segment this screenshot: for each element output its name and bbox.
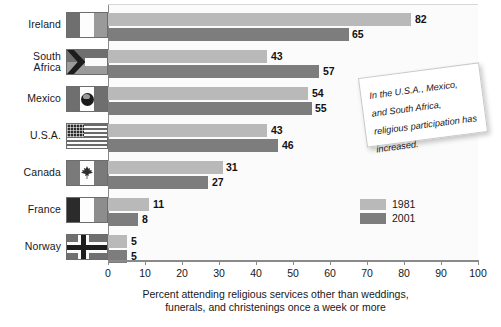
bar-south-africa-2001[interactable] (108, 65, 319, 78)
category-row-mexico: Mexico (0, 83, 108, 115)
category-row-south-africa: South Africa (0, 46, 108, 78)
x-axis-caption: Percent attending religious services oth… (60, 288, 491, 314)
legend-swatch-2001-icon (360, 213, 386, 224)
country-label-usa: U.S.A. (30, 130, 61, 142)
legend-item-1981[interactable]: 1981 (360, 198, 415, 210)
bar-value-canada-1981: 31 (226, 161, 238, 174)
bar-value-canada-2001: 27 (212, 176, 224, 189)
x-tick-label-50: 50 (287, 267, 299, 279)
bar-usa-1981[interactable] (108, 124, 267, 137)
x-axis-caption-line1: Percent attending religious services oth… (60, 288, 491, 301)
category-row-norway: Norway (0, 231, 108, 263)
bar-mexico-1981[interactable] (108, 87, 308, 100)
flag-france-icon (66, 197, 108, 223)
bar-south-africa-1981[interactable] (108, 50, 267, 63)
category-row-canada: Canada (0, 157, 108, 189)
bar-usa-2001[interactable] (108, 139, 278, 152)
bar-value-south-africa-2001: 57 (323, 65, 335, 78)
bar-value-norway-1981: 5 (131, 235, 137, 248)
bar-value-france-1981: 11 (153, 198, 164, 211)
bar-value-usa-2001: 46 (282, 139, 294, 152)
legend-item-2001[interactable]: 2001 (360, 212, 415, 224)
bar-france-2001[interactable] (108, 213, 138, 226)
country-label-canada: Canada (24, 167, 61, 179)
x-tick-label-10: 10 (139, 267, 151, 279)
category-row-france: France (0, 194, 108, 226)
bar-value-mexico-1981: 54 (312, 87, 324, 100)
bar-ireland-2001[interactable] (108, 28, 349, 41)
x-tick-70 (367, 260, 368, 265)
x-tick-label-40: 40 (250, 267, 262, 279)
category-row-usa: U.S.A. (0, 120, 108, 152)
x-tick-80 (404, 260, 405, 265)
x-tick-label-90: 90 (435, 267, 447, 279)
bar-value-south-africa-1981: 43 (271, 50, 283, 63)
bar-canada-1981[interactable] (108, 161, 223, 174)
legend-label-1981: 1981 (392, 198, 415, 210)
religious-attendance-bar-chart: Ireland South Africa Mexico (0, 0, 501, 327)
x-tick-label-80: 80 (398, 267, 410, 279)
x-tick-label-20: 20 (176, 267, 188, 279)
x-tick-60 (330, 260, 331, 265)
category-row-ireland: Ireland (0, 9, 108, 41)
bar-ireland-1981[interactable] (108, 13, 411, 26)
x-tick-10 (145, 260, 146, 265)
flag-canada-icon (66, 160, 108, 186)
x-tick-20 (182, 260, 183, 265)
bar-norway-1981[interactable] (108, 235, 127, 248)
bar-mexico-2001[interactable] (108, 102, 312, 115)
x-tick-40 (256, 260, 257, 265)
bar-value-ireland-2001: 65 (352, 28, 364, 41)
country-label-mexico: Mexico (27, 93, 61, 105)
category-axis-labels: Ireland South Africa Mexico (0, 4, 108, 260)
country-label-south-africa: South Africa (33, 51, 61, 74)
x-tick-label-60: 60 (324, 267, 336, 279)
country-label-france: France (28, 204, 61, 216)
legend-label-2001: 2001 (392, 212, 415, 224)
country-label-norway: Norway (25, 241, 61, 253)
x-tick-50 (293, 260, 294, 265)
legend-swatch-1981-icon (360, 199, 386, 210)
x-tick-100 (478, 260, 479, 265)
bar-value-ireland-1981: 82 (415, 13, 427, 26)
flag-norway-icon (66, 234, 108, 260)
bar-france-1981[interactable] (108, 198, 149, 211)
x-tick-90 (441, 260, 442, 265)
x-tick-label-30: 30 (213, 267, 225, 279)
x-tick-label-100: 100 (469, 267, 487, 279)
legend: 1981 2001 (360, 198, 415, 226)
x-tick-label-70: 70 (361, 267, 373, 279)
x-axis-caption-line2: funerals, and christenings once a week o… (60, 301, 491, 314)
bar-value-usa-1981: 43 (271, 124, 283, 137)
country-label-ireland: Ireland (28, 19, 61, 31)
x-tick-0 (108, 260, 109, 265)
flag-mexico-icon (66, 86, 108, 112)
flag-south-africa-icon (66, 49, 108, 75)
flag-ireland-icon (66, 12, 108, 38)
x-tick-30 (219, 260, 220, 265)
bar-value-france-2001: 8 (142, 213, 148, 226)
bar-value-mexico-2001: 55 (315, 102, 327, 115)
x-tick-label-0: 0 (105, 267, 111, 279)
flag-usa-icon (66, 123, 108, 149)
bar-canada-2001[interactable] (108, 176, 208, 189)
